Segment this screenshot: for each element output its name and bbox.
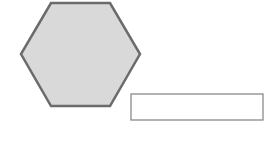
empty-rectangle-box	[131, 94, 263, 120]
diagram-canvas	[0, 0, 277, 147]
hexagon-shape	[21, 3, 140, 106]
